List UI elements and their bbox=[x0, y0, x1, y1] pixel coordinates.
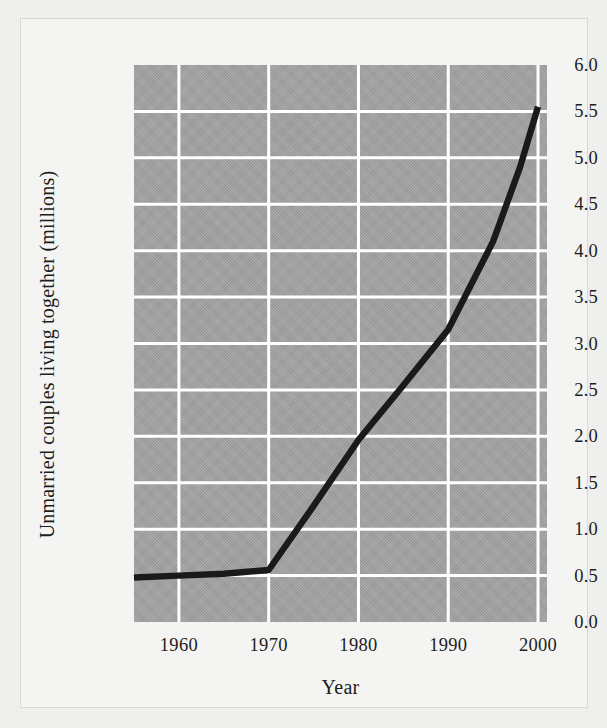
y-axis-tick-label: 3.0 bbox=[481, 333, 607, 354]
line-chart: 0.00.51.01.52.02.53.03.54.04.55.05.56.0 … bbox=[0, 0, 607, 728]
x-axis-tick-label: 1970 bbox=[250, 635, 288, 656]
horizontal-gridlines bbox=[134, 65, 547, 576]
x-axis-tick-label: 1960 bbox=[160, 635, 198, 656]
x-axis-title: Year bbox=[134, 676, 547, 699]
y-axis-tick-label: 4.5 bbox=[481, 194, 607, 215]
x-axis-tick-label: 2000 bbox=[519, 635, 557, 656]
y-axis-tick-label: 2.5 bbox=[481, 379, 607, 400]
y-axis-tick-label: 2.0 bbox=[481, 426, 607, 447]
y-axis-tick-label: 1.5 bbox=[481, 472, 607, 493]
y-axis-tick-label: 0.5 bbox=[481, 565, 607, 586]
y-axis-tick-label: 0.0 bbox=[481, 612, 607, 633]
y-axis-tick-label: 4.0 bbox=[481, 240, 607, 261]
figure-page: 0.00.51.01.52.02.53.03.54.04.55.05.56.0 … bbox=[0, 0, 607, 728]
y-axis-tick-label: 1.0 bbox=[481, 519, 607, 540]
y-axis-tick-label: 6.0 bbox=[481, 55, 607, 76]
y-axis-tick-label: 5.5 bbox=[481, 101, 607, 122]
y-axis-tick-label: 3.5 bbox=[481, 287, 607, 308]
y-axis-tick-label: 5.0 bbox=[481, 147, 607, 168]
x-axis-tick-label: 1990 bbox=[429, 635, 467, 656]
x-axis-tick-label: 1980 bbox=[339, 635, 377, 656]
y-axis-title: Unmarried couples living together (milli… bbox=[36, 95, 59, 615]
